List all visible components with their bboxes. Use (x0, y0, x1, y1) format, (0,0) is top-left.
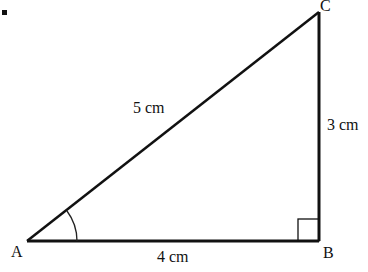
side-ac-hypotenuse (27, 12, 319, 241)
vertex-label-a: A (11, 243, 23, 260)
side-label-bc: 3 cm (327, 116, 359, 133)
vertex-label-b: B (323, 244, 334, 261)
angle-a-arc (67, 211, 77, 241)
vertex-label-c: C (320, 0, 331, 14)
right-triangle-diagram: C A B 5 cm 3 cm 4 cm (0, 0, 368, 272)
side-label-ac: 5 cm (133, 99, 165, 116)
right-angle-marker (298, 219, 319, 241)
side-label-ab: 4 cm (157, 248, 189, 265)
bullet-mark (2, 10, 7, 15)
